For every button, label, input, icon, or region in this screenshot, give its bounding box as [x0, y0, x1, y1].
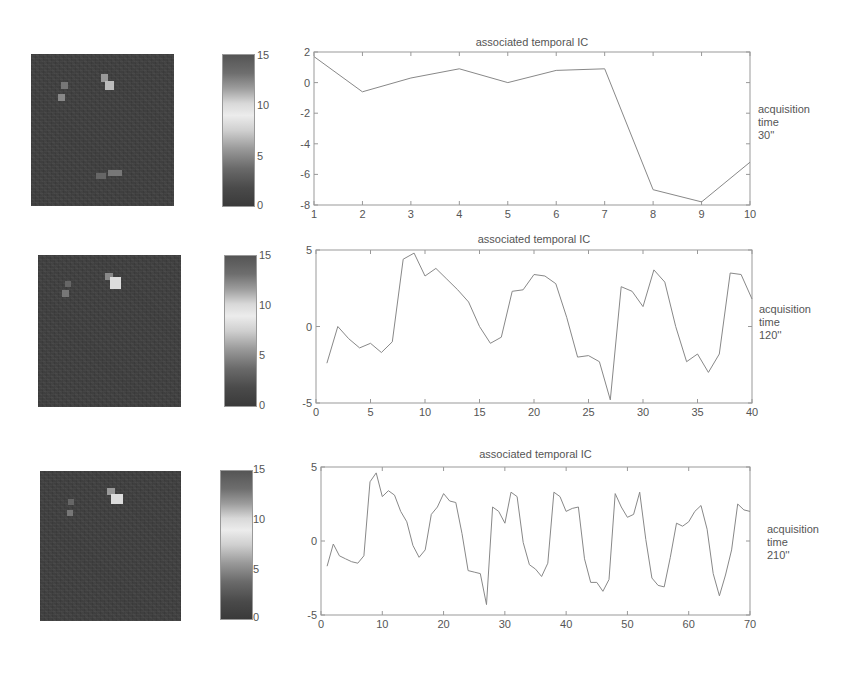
chart-title: associated temporal IC — [479, 448, 592, 460]
chart-title: associated temporal IC — [478, 233, 591, 245]
x-tick-label: 8 — [650, 208, 656, 220]
x-tick-label: 60 — [683, 618, 695, 630]
plot-axes-box — [321, 467, 750, 615]
x-tick-label: 70 — [744, 618, 756, 630]
x-tick-label: 9 — [698, 208, 704, 220]
temporal-ic-line — [327, 473, 750, 605]
x-tick-label: 7 — [602, 208, 608, 220]
temporal-ic-line — [327, 253, 752, 400]
y-tick-label: 5 — [311, 461, 317, 473]
y-tick-label: -4 — [300, 138, 310, 150]
x-tick-label: 25 — [582, 406, 594, 418]
x-tick-label: 6 — [553, 208, 559, 220]
x-tick-label: 0 — [313, 406, 319, 418]
y-tick-label: 2 — [304, 46, 310, 58]
y-tick-label: -5 — [302, 397, 312, 409]
y-tick-label: 5 — [306, 244, 312, 256]
chart-title: associated temporal IC — [476, 36, 589, 48]
x-tick-label: 30 — [499, 618, 511, 630]
x-tick-label: 15 — [473, 406, 485, 418]
x-tick-label: 20 — [437, 618, 449, 630]
x-tick-label: 40 — [560, 618, 572, 630]
x-tick-label: 3 — [408, 208, 414, 220]
x-tick-label: 10 — [376, 618, 388, 630]
x-tick-label: 50 — [621, 618, 633, 630]
x-tick-label: 40 — [746, 406, 758, 418]
x-tick-label: 20 — [528, 406, 540, 418]
x-tick-label: 1 — [311, 208, 317, 220]
y-tick-label: -2 — [300, 107, 310, 119]
x-tick-label: 10 — [744, 208, 756, 220]
temporal-ic-line — [314, 57, 750, 202]
y-tick-label: 0 — [304, 77, 310, 89]
plot-axes-box — [314, 52, 750, 205]
x-tick-label: 2 — [359, 208, 365, 220]
x-tick-label: 0 — [318, 618, 324, 630]
x-tick-label: 35 — [691, 406, 703, 418]
y-tick-label: -8 — [300, 199, 310, 211]
x-tick-label: 10 — [419, 406, 431, 418]
y-tick-label: -6 — [300, 168, 310, 180]
temporal-ic-charts: 12345678910-8-6-4-202associated temporal… — [0, 0, 861, 683]
x-tick-label: 4 — [456, 208, 462, 220]
x-tick-label: 5 — [505, 208, 511, 220]
y-tick-label: 0 — [306, 321, 312, 333]
y-tick-label: 0 — [311, 535, 317, 547]
y-tick-label: -5 — [307, 609, 317, 621]
x-tick-label: 5 — [367, 406, 373, 418]
plot-axes-box — [316, 250, 752, 403]
x-tick-label: 30 — [637, 406, 649, 418]
